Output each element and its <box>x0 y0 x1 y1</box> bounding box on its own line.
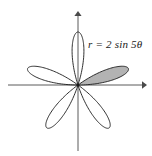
polar-plot-svg <box>0 0 152 156</box>
rose-petal <box>78 85 110 128</box>
rose-petal <box>27 66 78 85</box>
origin-point <box>76 83 79 86</box>
equation-label: r = 2 sin 5θ <box>88 38 142 51</box>
x-axis-arrow-icon <box>142 81 147 89</box>
y-axis-arrow-icon <box>74 11 81 16</box>
rose-petal <box>46 85 78 128</box>
polar-rose-figure: r = 2 sin 5θ <box>0 0 152 156</box>
rose-petal-shaded <box>78 66 129 85</box>
